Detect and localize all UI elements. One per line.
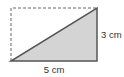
diagram-canvas: 3 cm 5 cm: [0, 0, 124, 77]
base-label: 5 cm: [44, 64, 65, 75]
height-label: 3 cm: [101, 29, 122, 40]
shaded-right-triangle: [11, 8, 97, 61]
